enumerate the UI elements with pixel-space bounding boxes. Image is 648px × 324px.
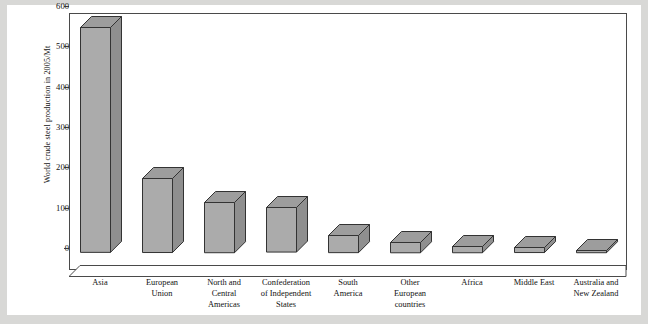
x-axis-label-line: New Zealand [551,288,641,299]
bar [142,180,172,255]
bar-3d-shape [514,236,557,255]
x-axis-label-line: European [365,288,455,299]
bar-3d-shape [390,231,433,255]
figure: World crude steel production in 2005/Mt … [0,0,648,324]
x-axis-label-line: Australia and [551,277,641,288]
bar-3d-shape [266,196,309,255]
chart-page: World crude steel production in 2005/Mt … [7,5,641,315]
bar [390,244,420,255]
y-tick-mark [64,6,69,7]
bar-3d-shape [328,224,371,255]
bar [514,249,544,255]
bar-3d-shape [80,16,123,255]
x-axis-labels: AsiaEuropeanUnionNorth andCentralAmerica… [69,277,627,324]
bar-3d-shape [576,239,619,255]
x-axis-label-line: countries [365,299,455,310]
x-axis-label-line: States [241,299,331,310]
bar [576,252,606,255]
bar [204,204,234,255]
bar-3d-shape [204,191,247,255]
bar [452,248,482,255]
bar [80,29,110,255]
bar-3d-shape [452,235,495,255]
y-axis: 0100200300400500600 [27,13,69,271]
bar [328,237,358,255]
bar-series [69,13,627,277]
bar [266,209,296,255]
bar-3d-shape [142,167,185,255]
x-axis-label: Australia andNew Zealand [551,277,641,299]
